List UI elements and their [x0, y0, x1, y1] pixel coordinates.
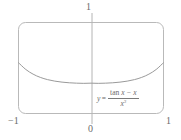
equation-fraction: tan x − x x3 — [108, 89, 139, 107]
graph-canvas — [0, 0, 181, 140]
equation-numerator-rest: x − x — [119, 88, 136, 97]
graph-figure: 1 0 −1 1 y = tan x − x x3 — [0, 0, 181, 140]
curve-equation-annotation: y = tan x − x x3 — [97, 89, 139, 107]
origin-label: 0 — [88, 124, 93, 134]
x-axis-min-label: −1 — [8, 116, 19, 126]
y-axis-max-label: 1 — [86, 2, 91, 12]
x-axis-max-label: 1 — [166, 116, 171, 126]
viewing-window-frame — [19, 23, 164, 114]
curve-tanx-minus-x-over-x-cubed — [19, 63, 164, 84]
equation-tan-function: tan — [110, 88, 119, 97]
equation-denominator: x3 — [120, 99, 126, 108]
equation-denominator-exponent: 3 — [124, 98, 127, 103]
